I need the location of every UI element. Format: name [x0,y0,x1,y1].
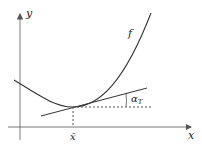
angle-arc [126,94,127,107]
x-axis-label: x [188,129,195,142]
tangent-angle-diagram: y x f x̄ αT [0,0,202,148]
point-label: x̄ [70,131,76,142]
curve-label: f [127,27,134,40]
angle-label: αT [131,93,144,106]
angle-label-sub: T [138,98,144,106]
y-axis-label: y [25,7,33,20]
